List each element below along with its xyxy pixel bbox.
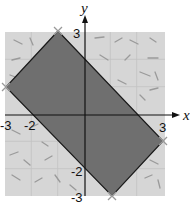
coordinate-plane: y x 3 -2 -3 -3 -2 3 xyxy=(0,0,190,203)
y-axis-arrow-icon xyxy=(82,15,88,23)
x-tick-neg2: -2 xyxy=(24,118,36,133)
y-tick-3: 3 xyxy=(73,26,80,41)
x-tick-neg3: -3 xyxy=(0,118,12,133)
x-axis-arrow-icon xyxy=(172,112,180,118)
y-tick-neg3: -3 xyxy=(71,190,83,203)
x-axis-label: x xyxy=(182,107,190,123)
y-tick-neg2: -2 xyxy=(71,164,83,179)
x-tick-3: 3 xyxy=(159,120,166,135)
y-axis-label: y xyxy=(79,0,88,16)
